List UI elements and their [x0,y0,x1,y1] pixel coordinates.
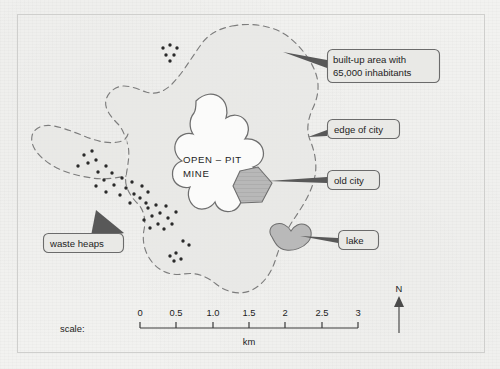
scale-tick-label-4: 2 [282,307,287,318]
callout-lake[interactable]: lake [339,231,379,250]
open-pit-mine-label-line1: OPEN – PIT [183,154,242,165]
open-pit-mine-label-line2: MINE [183,168,209,179]
map-canvas: OPEN – PIT MINE [0,0,500,369]
city-boundary-west-lobe-fill [32,125,128,178]
leader-edge-of-city [308,130,327,137]
callout-edge-of-city[interactable]: edge of city [328,120,400,139]
callout-waste-heaps-label: waste heaps [49,238,104,249]
callout-built-up-area[interactable]: built-up area with 65,000 inhabitants [328,50,440,83]
callout-waste-heaps[interactable]: waste heaps [44,234,124,253]
callout-old-city-label: old city [334,175,364,186]
callout-lake-label: lake [346,235,364,246]
scale-tick-label-6: 3 [355,307,360,318]
callout-edge-of-city-label: edge of city [334,124,383,135]
scale-tick-label-2: 1.0 [206,307,219,318]
north-arrow-label: N [396,283,403,294]
callout-built-up-area-line2: 65,000 inhabitants [333,67,412,78]
scale-tick-label-5: 2.5 [315,307,328,318]
scale-bar: scale: 0 0.5 1.0 1.5 2 2.5 3 km [60,307,361,347]
scale-bar-label: scale: [60,323,85,334]
callout-old-city[interactable]: old city [328,171,380,190]
north-arrow: N [394,283,404,333]
city-boundary-west-lobe [32,125,128,178]
scale-tick-label-1: 0.5 [169,307,182,318]
scale-tick-label-3: 1.5 [242,307,255,318]
callout-built-up-area-line1: built-up area with [333,54,406,65]
scale-tick-label-0: 0 [137,307,142,318]
scale-bar-unit: km [243,336,256,347]
north-arrow-head-icon [394,296,404,307]
map-figure: OPEN – PIT MINE [0,0,500,369]
